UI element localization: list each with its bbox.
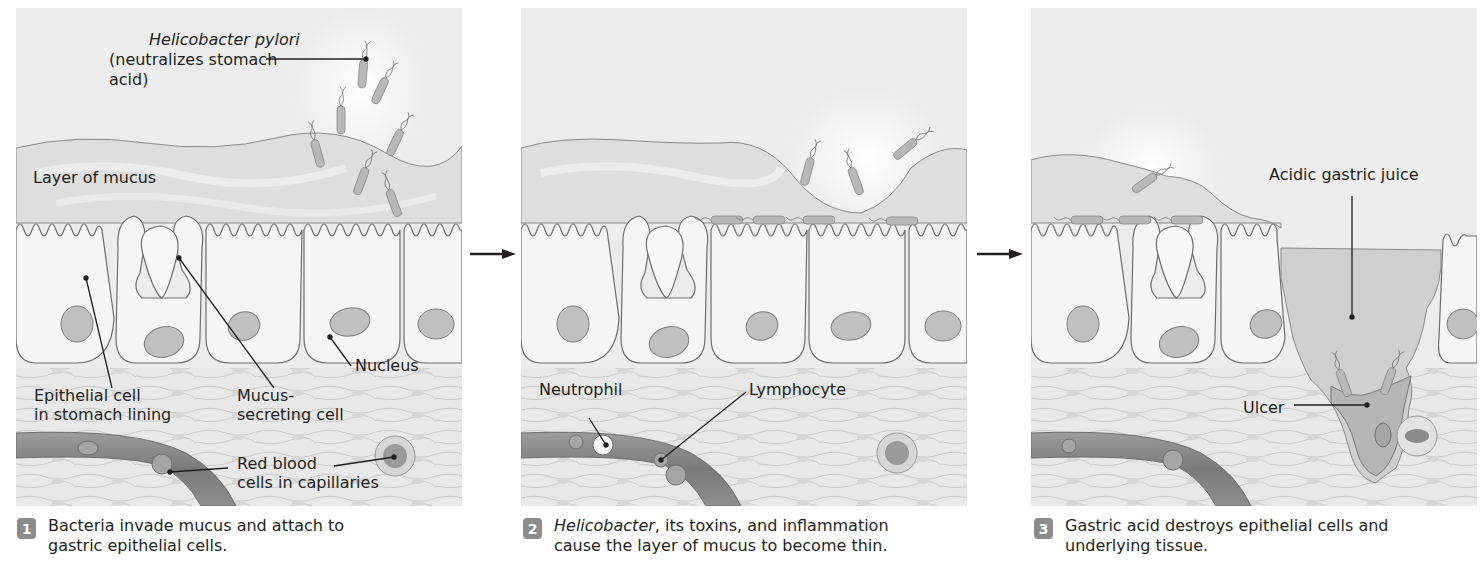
step2-illustration xyxy=(521,8,967,506)
label-acidic-gastric-juice: Acidic gastric juice xyxy=(1269,165,1419,184)
panel-step-3: Acidic gastric juice Ulcer xyxy=(1031,8,1477,506)
label-red-blood-line2: cells in capillaries xyxy=(237,473,379,492)
label-neutralizes-acid-line1: (neutralizes stomach xyxy=(109,50,277,69)
arrow-right-icon xyxy=(468,248,518,260)
step3-illustration xyxy=(1031,8,1477,506)
label-nucleus: Nucleus xyxy=(355,356,419,375)
caption-text: Helicobacter, its toxins, and inflammati… xyxy=(554,516,889,556)
caption-step-1: 1 Bacteria invade mucus and attach to ga… xyxy=(17,516,344,556)
caption-step-2: 2 Helicobacter, its toxins, and inflamma… xyxy=(523,516,889,556)
label-red-blood-line1: Red blood xyxy=(237,454,317,473)
panel-step-2: Neutrophil Lymphocyte xyxy=(521,8,967,506)
step-number-badge: 2 xyxy=(523,518,542,539)
label-mucus-secreting-line1: Mucus- xyxy=(237,386,294,405)
label-layer-of-mucus: Layer of mucus xyxy=(33,168,156,187)
step-number-badge: 1 xyxy=(17,518,36,539)
label-helicobacter-pylori: Helicobacter pylori xyxy=(149,30,300,49)
label-neutralizes-acid-line2: acid) xyxy=(109,70,148,89)
caption-text: Gastric acid destroys epithelial cells a… xyxy=(1065,516,1389,556)
label-epithelial-cell-line1: Epithelial cell xyxy=(34,386,141,405)
label-neutrophil: Neutrophil xyxy=(539,380,622,399)
label-mucus-secreting-line2: secreting cell xyxy=(237,405,344,424)
label-lymphocyte: Lymphocyte xyxy=(749,380,846,399)
label-epithelial-cell-line2: in stomach lining xyxy=(34,405,171,424)
caption-step-3: 3 Gastric acid destroys epithelial cells… xyxy=(1034,516,1389,556)
panel-step-1: Helicobacter pylori (neutralizes stomach… xyxy=(16,8,462,506)
caption-text: Bacteria invade mucus and attach to gast… xyxy=(48,516,344,556)
step-number-badge: 3 xyxy=(1034,518,1053,539)
step1-illustration xyxy=(16,8,462,506)
label-ulcer: Ulcer xyxy=(1243,398,1284,417)
arrow-right-icon xyxy=(975,248,1025,260)
